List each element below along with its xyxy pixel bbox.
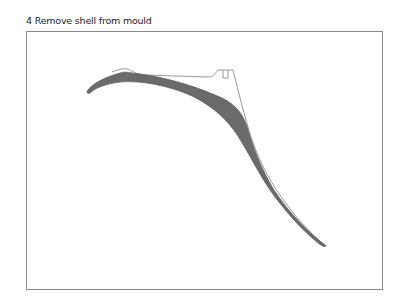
shell-mould-diagram [0, 0, 402, 306]
mould-notch [223, 70, 228, 78]
shell-section [87, 72, 326, 246]
